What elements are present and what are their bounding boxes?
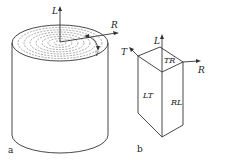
face-label-TR: TR [164, 56, 175, 65]
axis-label-T-b: T [121, 47, 128, 57]
panel-caption-a: a [8, 145, 14, 155]
face-label-LT: LT [142, 91, 154, 100]
wood-axes-diagram: L R T a L R T TR LT RL b [0, 0, 226, 160]
face-label-RL: RL [170, 98, 182, 107]
panel-caption-b: b [137, 144, 143, 154]
axis-label-L-a: L [51, 6, 58, 16]
axis-label-R-b: R [197, 65, 205, 75]
panel-b-cube [129, 34, 201, 137]
axis-label-R-a: R [110, 20, 118, 30]
panel-a-cylinder [12, 6, 119, 153]
axis-label-L-b: L [153, 36, 160, 46]
